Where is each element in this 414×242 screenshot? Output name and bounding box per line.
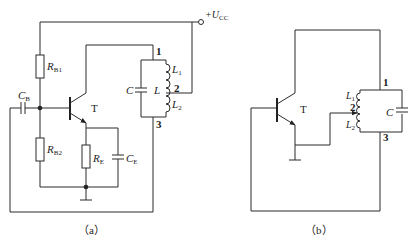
- node-3: 3: [156, 118, 162, 130]
- label-t-b: T: [300, 103, 307, 115]
- feedback-wire-b: [251, 108, 380, 211]
- label-ce: CE: [126, 152, 138, 166]
- figure-a: RB1 RB2 RE CB CE C L L1 L2 1 2 3 T +UCC …: [10, 9, 229, 236]
- label-l: L: [153, 84, 160, 96]
- transistor-t: [70, 93, 86, 123]
- supply-rail: [40, 22, 198, 55]
- node-2: 2: [174, 82, 180, 94]
- label-rb2: RB2: [46, 143, 62, 157]
- label-rb1: RB1: [46, 60, 62, 74]
- node-1: 1: [156, 45, 162, 57]
- node-2-b: 2: [350, 101, 356, 113]
- caption-a: （a）: [78, 224, 105, 236]
- resistor-rb1: [36, 55, 44, 78]
- label-ucc: +UCC: [205, 9, 229, 22]
- label-re: RE: [92, 152, 104, 166]
- resistor-re: [82, 145, 90, 168]
- node-3-b: 3: [383, 131, 389, 143]
- label-l2-b: L2: [345, 119, 356, 132]
- label-c-b: C: [386, 106, 394, 118]
- label-cb: CB: [18, 89, 30, 103]
- label-t: T: [91, 102, 98, 114]
- label-l1: L1: [171, 63, 182, 77]
- resistor-rb2: [36, 138, 44, 161]
- label-c: C: [126, 84, 134, 96]
- inductor-l-b: [357, 93, 361, 128]
- supply-terminal: [199, 20, 204, 25]
- figure-b: T C L1 L2 1 2 3 （b）: [251, 30, 408, 236]
- circuit-diagram: RB1 RB2 RE CB CE C L L1 L2 1 2 3 T +UCC …: [0, 0, 414, 242]
- label-l2: L2: [171, 98, 182, 112]
- caption-b: （b）: [305, 224, 333, 236]
- inductor-l: [166, 64, 170, 112]
- node-1-b: 1: [383, 76, 389, 88]
- transistor-t-b: [277, 93, 295, 125]
